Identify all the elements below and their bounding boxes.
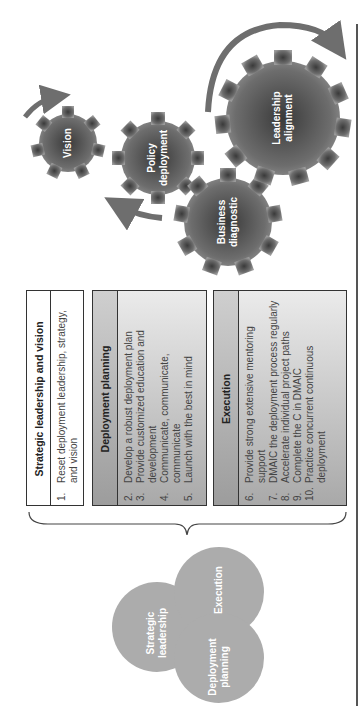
table-title: Strategic leadership and vision bbox=[27, 291, 51, 506]
list-item: 5.Launch with the best in mind bbox=[183, 297, 195, 501]
list-item: 9.Complete the C in DMAIC bbox=[292, 297, 304, 501]
divider-line bbox=[356, 24, 358, 706]
brace-icon bbox=[29, 512, 346, 535]
list-item: 2.Develop a robust deployment plan bbox=[123, 297, 135, 501]
list-item: 1.Reset deployment leadership, strategy,… bbox=[56, 297, 80, 501]
list-item: 7.DMAIC the deployment process regularly bbox=[268, 297, 280, 501]
gear-label-leadership-alignment: Leadership alignment bbox=[271, 85, 295, 151]
list-item: 6.Provide strong extensive mentoring sup… bbox=[244, 297, 268, 501]
list-item: 3.Provide customized education and devel… bbox=[135, 297, 159, 501]
table-title: Execution bbox=[214, 291, 239, 506]
table-strategic-leadership: Strategic leadership and vision 1.Reset … bbox=[26, 290, 84, 506]
table-body: 2.Develop a robust deployment plan 3.Pro… bbox=[118, 291, 207, 506]
table-execution: Execution 6.Provide strong extensive men… bbox=[213, 290, 347, 506]
gear-label-policy-deployment: Policy deployment bbox=[146, 128, 170, 188]
gear-label-vision: Vision bbox=[62, 123, 74, 163]
venn-diagram bbox=[112, 547, 264, 703]
table-body: 6.Provide strong extensive mentoring sup… bbox=[239, 291, 347, 506]
arrow-vision-icon bbox=[25, 97, 56, 117]
table-title: Deployment planning bbox=[93, 291, 118, 506]
table-deployment-planning: Deployment planning 2.Develop a robust d… bbox=[92, 290, 207, 506]
venn-label-strategic-leadership: Strategic leadership bbox=[145, 598, 169, 668]
table-body: 1.Reset deployment leadership, strategy,… bbox=[51, 291, 84, 506]
arrow-policy-icon bbox=[120, 206, 162, 218]
list-item: 8.Accelerate individual project paths bbox=[280, 297, 292, 501]
list-item: 4.Communicate, communicate, communicate bbox=[159, 297, 183, 501]
gear-label-business-diagnostic: Business diagnostic bbox=[216, 192, 240, 252]
venn-label-deployment-planning: Deployment planning bbox=[207, 632, 231, 702]
list-item: 10.Practice concurrent continuous deploy… bbox=[304, 297, 328, 501]
venn-label-execution: Execution bbox=[213, 555, 225, 625]
